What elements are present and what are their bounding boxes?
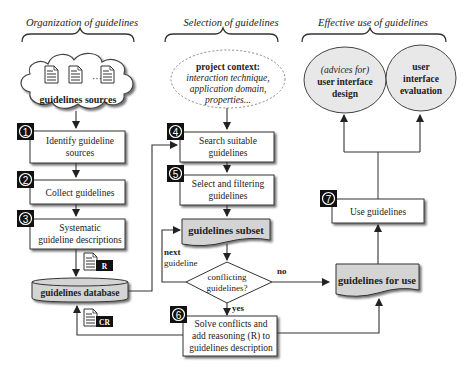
next-label: next <box>164 247 181 257</box>
section-title-selection: Selection of guidelines <box>183 17 278 28</box>
step-label: Identify guideline <box>46 136 114 146</box>
guidelines-process-diagram: Organization of guidelines Selection of … <box>0 0 472 368</box>
step-5-box: 5 Select and filtering guidelines <box>167 165 274 205</box>
brace-selection <box>165 28 278 42</box>
context-line: application domain, <box>190 84 267 94</box>
section-header-effective-use: Effective use of guidelines <box>302 17 446 42</box>
design-prefix: (advices for) <box>321 65 369 76</box>
context-line: properties... <box>204 95 251 105</box>
sources-label: guidelines sources <box>40 94 117 105</box>
conflicting-guidelines-decision: conflicting guidelines? <box>186 262 272 303</box>
step-label: guidelines <box>208 148 247 158</box>
evaluation-label: user <box>412 62 430 72</box>
yes-label: yes <box>232 303 244 313</box>
document-icon <box>69 66 82 83</box>
step-2-box: 2 Collect guidelines <box>17 171 125 204</box>
brace-effective-use <box>302 28 446 42</box>
tag-label: R <box>102 262 108 271</box>
step-label: guidelines description <box>189 343 273 353</box>
guidelines-database: guidelines database <box>32 278 128 302</box>
step-label: Solve conflicts and <box>195 319 268 329</box>
step-number: 1 <box>23 127 29 138</box>
outcome-ui-design: (advices for) user interface design <box>304 47 386 113</box>
guidelines-sources-cloud: ··· guidelines sources <box>21 53 133 108</box>
step-4-box: 4 Search suitable guidelines <box>167 123 274 162</box>
step-label: Select and filtering <box>192 179 265 189</box>
step-1-box: 1 Identify guideline sources <box>17 123 125 163</box>
step-number: 4 <box>173 127 179 138</box>
guidelines-subset: guidelines subset <box>182 219 270 246</box>
section-title-effective-use: Effective use of guidelines <box>317 17 428 28</box>
step-label: guidelines <box>208 191 247 201</box>
decision-label: conflicting <box>208 272 247 282</box>
document-icon <box>45 66 58 83</box>
section-header-selection: Selection of guidelines <box>165 17 279 42</box>
evaluation-label: interface <box>403 74 439 84</box>
section-title-organization: Organization of guidelines <box>26 17 138 28</box>
reasoning-document-tag: R <box>84 253 113 271</box>
outcome-ui-evaluation: user interface evaluation <box>386 45 456 111</box>
document-icon <box>101 66 114 83</box>
step-number: 3 <box>23 214 29 225</box>
database-label: guidelines database <box>41 288 120 298</box>
project-context-ellipse: project context: interaction technique, … <box>171 50 285 108</box>
decision-label: guidelines? <box>207 283 248 293</box>
step-number: 6 <box>176 310 182 321</box>
step-label: add reasoning (R) to <box>192 331 270 342</box>
arrow-step6-to-for-use <box>277 299 379 333</box>
step-7-box: 7 Use guidelines <box>320 190 424 223</box>
step-label: Use guidelines <box>350 207 407 217</box>
tag-label: CR <box>99 318 110 327</box>
guideline-label: guideline <box>164 258 198 268</box>
step-3-box: 3 Systematic guideline descriptions <box>17 210 125 249</box>
evaluation-label: evaluation <box>400 86 443 96</box>
step-number: 2 <box>23 175 29 186</box>
no-label: no <box>277 266 287 276</box>
guidelines-for-use: guidelines for use <box>336 264 419 296</box>
design-label: design <box>332 89 359 99</box>
context-line: interaction technique, <box>186 73 269 83</box>
for-use-label: guidelines for use <box>338 275 416 286</box>
step-label: guideline descriptions <box>38 235 122 245</box>
subset-label: guidelines subset <box>188 225 264 236</box>
context-title: project context: <box>196 62 260 72</box>
conflict-resolution-document-tag: CR <box>84 309 113 327</box>
step-label: Systematic <box>59 223 101 233</box>
brace-organization <box>22 28 134 42</box>
step-label: Search suitable <box>199 136 257 146</box>
section-header-organization: Organization of guidelines <box>22 17 138 42</box>
step-6-box: 6 Solve conflicts and add reasoning (R) … <box>170 306 277 356</box>
step-label: Collect guidelines <box>46 188 115 198</box>
step-label: sources <box>66 148 95 158</box>
design-label: user interface <box>317 77 372 87</box>
step-number: 5 <box>173 169 179 180</box>
step-number: 7 <box>326 194 332 205</box>
